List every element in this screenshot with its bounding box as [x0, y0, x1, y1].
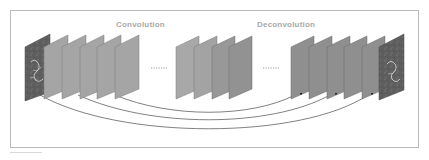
skip-connection-1: [115, 95, 295, 112]
encoder-decoder-diagram: [0, 0, 429, 160]
decoder-layers: [291, 36, 385, 99]
bottleneck-layers: [176, 36, 252, 99]
encoder-label: Convolution: [116, 20, 165, 29]
skip-connections: [40, 95, 368, 129]
decoder-label: Deconvolution: [257, 20, 315, 29]
caption-underline: [10, 152, 42, 153]
encoder-layers: [44, 35, 139, 99]
middle-layer-4: [229, 36, 252, 99]
